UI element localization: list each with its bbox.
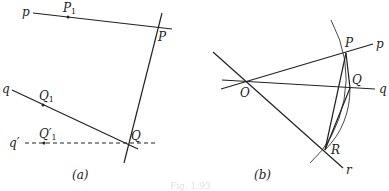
point-q1 [42,104,45,107]
panel-a-label: (a) [72,168,89,182]
point-p1 [67,16,70,19]
panel-b: O P p Q q R r (b) [213,20,387,182]
line-q-a [12,90,138,149]
label-O: O [240,86,250,100]
label-P-a: P [157,30,167,44]
label-q-prime: q′ [9,136,20,150]
segment-pr [325,53,346,150]
label-Q-a: Q [131,129,141,143]
line-p-a [33,13,172,29]
panel-b-label: (b) [254,168,271,182]
point-q1-prime [43,142,46,145]
panel-a: p P1 P q Q1 q′ Q′1 Q (a) [2,1,172,182]
label-q1: Q1 [39,89,54,104]
label-p-b: p [376,37,384,51]
transversal-line-a [124,13,162,163]
label-P-b: P [344,36,354,50]
segment-qr [325,88,350,150]
label-q1-prime: Q′1 [39,127,57,142]
segment-pq [346,53,350,88]
figure-caption: Fig. 1.93 [170,181,211,191]
line-p-b [221,44,373,89]
label-q-b: q [379,82,387,96]
label-q-a: q [2,82,10,96]
label-Q-b: Q [352,73,362,87]
line-r-b [213,52,343,168]
figure-canvas: p P1 P q Q1 q′ Q′1 Q (a) O P p Q q R r (… [0,0,389,191]
label-p1: P1 [62,1,76,16]
label-p-a: p [22,5,30,19]
label-R: R [330,143,340,157]
label-r-b: r [346,163,353,177]
